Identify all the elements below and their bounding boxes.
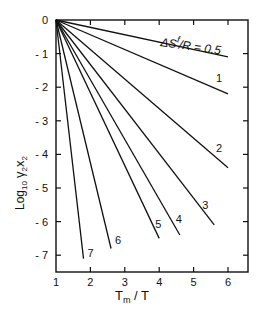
y-tick-label: - 3 [35, 115, 48, 127]
series-line-1 [56, 20, 228, 94]
curve-label-7: 7 [88, 247, 94, 259]
y-tick-label: - 7 [35, 249, 48, 261]
x-tick-label: 5 [191, 276, 197, 288]
curve-label-6: 6 [115, 234, 121, 246]
curve-label-5: 5 [155, 218, 161, 230]
y-tick-label: 0 [42, 14, 48, 26]
curve-label-3: 3 [202, 199, 208, 211]
y-tick-label: - 5 [35, 182, 48, 194]
series-line-4 [56, 20, 180, 235]
curve-label-1: 1 [216, 72, 222, 84]
y-tick-label: - 1 [35, 48, 48, 60]
x-tick-label: 2 [87, 276, 93, 288]
series-line-5 [56, 20, 159, 238]
y-tick-label: - 4 [35, 148, 48, 160]
y-tick-label: - 6 [35, 216, 48, 228]
legend-annotation: ΔSf/R = 0.5 [159, 32, 223, 57]
series-lines [56, 20, 228, 259]
x-tick-label: 3 [122, 276, 128, 288]
x-axis-label: Tm / T [115, 288, 149, 305]
x-tick-label: 1 [53, 276, 59, 288]
x-tick-label: 4 [156, 276, 162, 288]
curve-label-4: 4 [176, 213, 182, 225]
chart: 1234560- 1- 2- 3- 4- 5- 6- 7 1234567 Tm … [0, 0, 263, 316]
series-line-7 [56, 20, 84, 259]
y-tick-label: - 2 [35, 81, 48, 93]
curve-label-2: 2 [216, 142, 222, 154]
y-axis-label: Log10γ2x2 [12, 156, 29, 210]
x-tick-label: 6 [225, 276, 231, 288]
series-line-6 [56, 20, 111, 248]
